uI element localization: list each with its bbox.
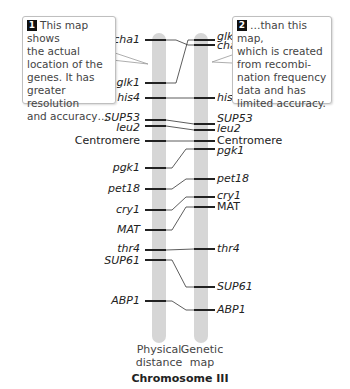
callout-number-1: 1 (27, 20, 37, 31)
genetic-tick-abp1 (194, 309, 215, 311)
genetic-tick-sup61 (194, 286, 215, 288)
physical-tick-sup53 (145, 119, 166, 121)
physical-gene-pgk1: pgk1 (40, 162, 140, 174)
genetic-gene-sup61: SUP61 (217, 281, 253, 293)
physical-tick-abp1 (145, 300, 166, 302)
genetic-gene-pgk1: pgk1 (217, 145, 244, 157)
genetic-tick-leu2 (194, 129, 215, 131)
physical-tick-leu2 (145, 125, 166, 127)
genetic-tick-pet18 (194, 178, 215, 180)
physical-tick-his4 (145, 97, 166, 99)
genetic-tick-glk1 (194, 39, 215, 41)
physical-gene-leu2: leu2 (40, 122, 140, 134)
callout-genetic-map: 2…than this map, which is created from r… (232, 16, 332, 104)
genetic-tick-pgk1 (194, 148, 215, 150)
genetic-tick-thr4 (194, 248, 215, 250)
figure-title: Chromosome III (120, 372, 240, 385)
physical-tick-pet18 (145, 188, 166, 190)
genetic-tick-sup53 (194, 123, 215, 125)
genetic-tick-mat (194, 206, 215, 208)
physical-tick-mat (145, 229, 166, 231)
physical-tick-cry1 (145, 209, 166, 211)
physical-tick-centromere (145, 140, 166, 142)
genetic-map-label: Genetic map (180, 343, 224, 369)
physical-gene-pet18: pet18 (40, 183, 140, 195)
genetic-gene-mat: MAT (217, 201, 240, 213)
callout-number-2: 2 (237, 20, 247, 31)
genetic-chromosome-bar (194, 33, 208, 343)
physical-tick-sup61 (145, 259, 166, 261)
physical-tick-pgk1 (145, 167, 166, 169)
genetic-tick-centromere (194, 140, 215, 142)
physical-tick-cha1 (145, 39, 166, 41)
physical-gene-centromere: Centromere (40, 135, 140, 147)
physical-tick-thr4 (145, 249, 166, 251)
physical-gene-cry1: cry1 (40, 204, 140, 216)
genetic-tick-cry1 (194, 196, 215, 198)
genetic-gene-thr4: thr4 (217, 243, 240, 255)
callout-physical-map: 1This map shows the actual location of t… (22, 16, 116, 104)
genetic-tick-cha1 (194, 44, 215, 46)
genetic-tick-his4 (194, 97, 215, 99)
physical-gene-abp1: ABP1 (40, 295, 140, 307)
genetic-gene-pet18: pet18 (217, 173, 249, 185)
physical-tick-glk1 (145, 82, 166, 84)
genetic-gene-abp1: ABP1 (217, 304, 246, 316)
physical-gene-mat: MAT (40, 224, 140, 236)
physical-gene-sup61: SUP61 (40, 255, 140, 267)
